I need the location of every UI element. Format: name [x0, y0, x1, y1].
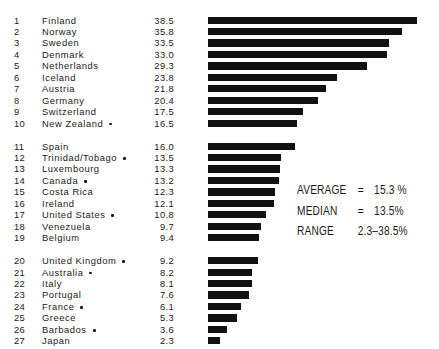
row-country-name: Netherlands: [42, 60, 99, 71]
row-country-name: Germany: [42, 95, 84, 106]
stat-median-label: MEDIAN: [297, 201, 358, 222]
row-bar: [208, 200, 274, 207]
table-row: 7Austria21.8: [0, 83, 439, 94]
row-bar: [208, 120, 297, 127]
row-rank: 9: [14, 106, 34, 117]
row-value: 17.5: [118, 106, 174, 117]
stat-range: RANGE2.3–38.5%: [297, 221, 413, 242]
row-marker-dot-icon: [111, 214, 114, 217]
stat-average: AVERAGE=15.3 %: [297, 180, 413, 201]
row-rank: 8: [14, 95, 34, 106]
row-rank: 22: [14, 278, 34, 289]
row-bar: [208, 337, 220, 344]
row-rank: 15: [14, 186, 34, 197]
stat-range-value: 2.3–38.5%: [358, 221, 408, 242]
row-value: 29.3: [118, 60, 174, 71]
row-rank: 13: [14, 163, 34, 174]
table-row: 10New Zealand16.5: [0, 118, 439, 129]
row-country-name: Canada: [42, 175, 78, 186]
row-value: 20.4: [118, 95, 174, 106]
row-country-name: Denmark: [42, 49, 84, 60]
row-rank: 25: [14, 312, 34, 323]
row-rank: 20: [14, 255, 34, 266]
row-rank: 12: [14, 152, 34, 163]
row-marker-dot-icon: [80, 306, 83, 309]
row-country-name: Barbados: [42, 324, 87, 335]
row-value: 33.0: [118, 49, 174, 60]
row-marker-dot-icon: [84, 180, 87, 183]
row-bar: [208, 291, 249, 298]
row-marker-dot-icon: [89, 272, 92, 275]
row-value: 12.1: [118, 198, 174, 209]
table-row: 26Barbados3.6: [0, 324, 439, 335]
row-bar: [208, 74, 337, 81]
row-value: 2.3: [118, 335, 174, 346]
row-value: 35.8: [118, 26, 174, 37]
stat-average-equals: =: [358, 180, 374, 201]
table-row: 21Australia8.2: [0, 267, 439, 278]
row-country-name: Ireland: [42, 198, 75, 209]
row-bar: [208, 326, 227, 333]
row-value: 23.8: [118, 72, 174, 83]
table-row: 1Finland38.5: [0, 15, 439, 26]
row-country-name: Portugal: [42, 289, 81, 300]
table-row: 11Spain16.0: [0, 141, 439, 152]
row-value: 9.4: [118, 232, 174, 243]
row-bar: [208, 154, 281, 161]
table-row: 13Luxembourg13.3: [0, 163, 439, 174]
row-value: 8.2: [118, 267, 174, 278]
row-rank: 1: [14, 15, 34, 26]
row-bar: [208, 280, 252, 287]
table-row: 9Switzerland17.5: [0, 106, 439, 117]
row-value: 12.3: [118, 186, 174, 197]
row-rank: 4: [14, 49, 34, 60]
row-value: 9.2: [118, 255, 174, 266]
row-country-name: Norway: [42, 26, 77, 37]
row-rank: 7: [14, 83, 34, 94]
table-row: 20United Kingdom9.2: [0, 255, 439, 266]
row-rank: 16: [14, 198, 34, 209]
row-bar: [208, 97, 318, 104]
row-country-name: Sweden: [42, 37, 79, 48]
ranked-bar-chart: 1Finland38.52Norway35.83Sweden33.54Denma…: [0, 0, 439, 349]
row-value: 38.5: [118, 15, 174, 26]
table-row: 25Greece5.3: [0, 312, 439, 323]
row-rank: 11: [14, 141, 34, 152]
row-rank: 24: [14, 301, 34, 312]
row-bar: [208, 51, 387, 58]
row-value: 7.6: [118, 289, 174, 300]
row-marker-dot-icon: [93, 329, 96, 332]
row-rank: 21: [14, 267, 34, 278]
row-bar: [208, 314, 237, 321]
row-bar: [208, 211, 266, 218]
stat-average-value: 15.3 %: [374, 180, 407, 201]
row-bar: [208, 165, 280, 172]
row-country-name: Trinidad/Tobago: [42, 152, 117, 163]
stat-median: MEDIAN=13.5%: [297, 201, 413, 222]
row-rank: 10: [14, 118, 34, 129]
stat-median-value: 13.5%: [374, 201, 404, 222]
row-bar: [208, 28, 402, 35]
row-country-name: Belgium: [42, 232, 80, 243]
table-row: 22Italy8.1: [0, 278, 439, 289]
row-rank: 3: [14, 37, 34, 48]
table-row: 2Norway35.8: [0, 26, 439, 37]
row-country-name: United Kingdom: [42, 255, 116, 266]
stat-median-equals: =: [358, 201, 374, 222]
row-country-name: Iceland: [42, 72, 76, 83]
row-value: 13.3: [118, 163, 174, 174]
row-country-name: Greece: [42, 312, 76, 323]
row-value: 10.8: [118, 209, 174, 220]
row-bar: [208, 108, 303, 115]
row-value: 13.2: [118, 175, 174, 186]
row-country-name: Costa Rica: [42, 186, 93, 197]
row-rank: 2: [14, 26, 34, 37]
row-country-name: Austria: [42, 83, 75, 94]
row-country-name: Spain: [42, 141, 69, 152]
row-bar: [208, 177, 279, 184]
table-row: 4Denmark33.0: [0, 49, 439, 60]
table-row: 5Netherlands29.3: [0, 60, 439, 71]
stat-average-label: AVERAGE: [297, 180, 358, 201]
row-bar: [208, 223, 261, 230]
row-rank: 5: [14, 60, 34, 71]
